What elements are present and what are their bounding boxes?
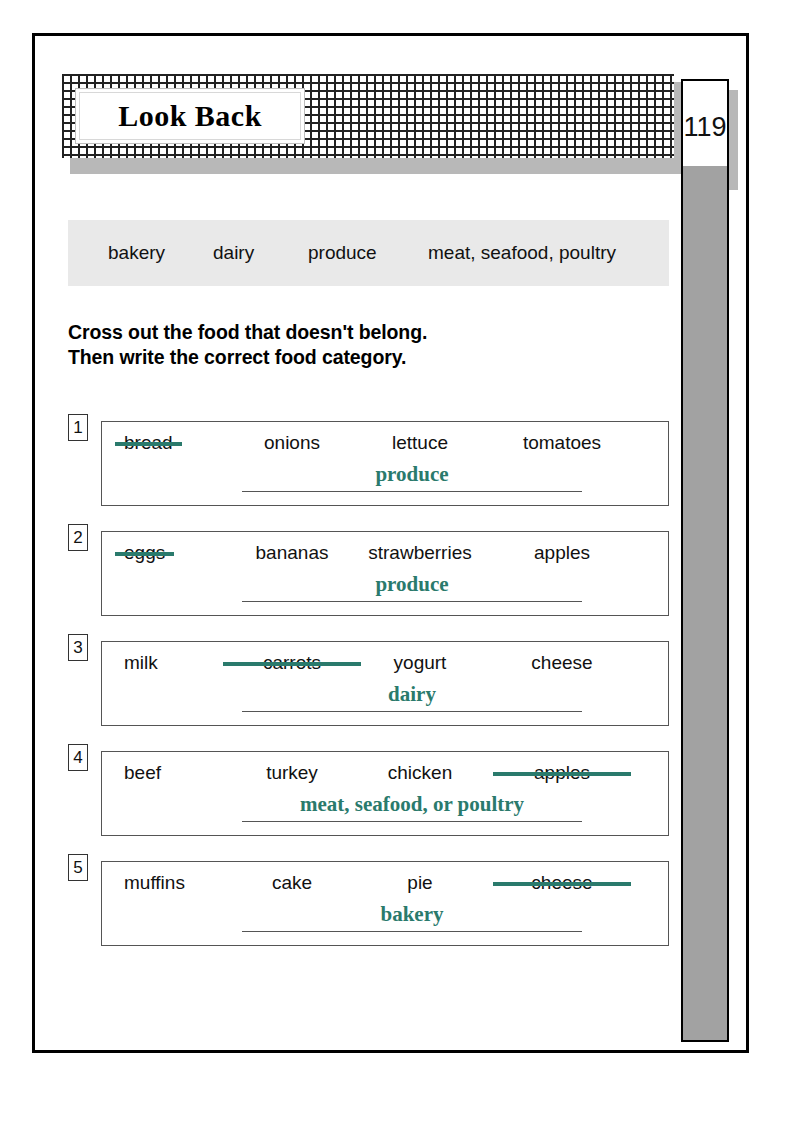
food-word-label: lettuce (392, 432, 448, 453)
word-bank-item-bakery: bakery (108, 242, 165, 264)
answer-zone[interactable]: produce (242, 572, 582, 612)
food-word-label: beef (124, 762, 161, 783)
food-word[interactable]: pie (360, 872, 480, 894)
exercise-number-box: 4 (68, 744, 88, 771)
food-word[interactable]: cheese (502, 652, 622, 674)
food-word[interactable]: chicken (360, 762, 480, 784)
food-word[interactable]: apples (502, 542, 622, 564)
exercise-box: breadonionslettucetomatoesproduce (101, 421, 669, 506)
food-word-row: beefturkeychickenapples (102, 758, 668, 792)
strikethrough-mark (493, 772, 631, 776)
food-word-label: milk (124, 652, 158, 673)
instruction-line-1: Cross out the food that doesn't belong. (68, 320, 588, 345)
food-word[interactable]: muffins (124, 872, 185, 894)
food-word-label: muffins (124, 872, 185, 893)
food-word[interactable]: bananas (232, 542, 352, 564)
exercise-number-box: 1 (68, 414, 88, 441)
food-word[interactable]: strawberries (360, 542, 480, 564)
word-bank-item-dairy: dairy (213, 242, 254, 264)
page-title: Look Back (118, 99, 262, 133)
exercise-item: 5muffinscakepiecheesebakery (68, 854, 669, 946)
food-word-label: cheese (531, 652, 592, 673)
answer-write-line (242, 491, 582, 492)
food-word-crossed-out[interactable]: cheese (502, 872, 622, 894)
strikethrough-mark (493, 882, 631, 886)
page-number-tab: 119 (681, 79, 729, 175)
right-side-strip (681, 166, 729, 1042)
food-word[interactable]: turkey (232, 762, 352, 784)
answer-write-line (242, 821, 582, 822)
answer-text: bakery (242, 902, 582, 927)
answer-zone[interactable]: dairy (242, 682, 582, 722)
word-bank: bakery dairy produce meat, seafood, poul… (68, 220, 669, 286)
answer-write-line (242, 711, 582, 712)
answer-write-line (242, 931, 582, 932)
exercise-box: eggsbananasstrawberriesapplesproduce (101, 531, 669, 616)
exercise-item: 4beefturkeychickenapplesmeat, seafood, o… (68, 744, 669, 836)
instruction-line-2: Then write the correct food category. (68, 345, 588, 370)
food-word-label: cake (272, 872, 312, 893)
food-word-crossed-out[interactable]: apples (502, 762, 622, 784)
title-plate: Look Back (75, 88, 305, 144)
header-band-shadow (70, 158, 682, 174)
food-word[interactable]: cake (232, 872, 352, 894)
food-word-label: turkey (266, 762, 318, 783)
exercise-box: milkcarrotsyogurtcheesedairy (101, 641, 669, 726)
exercise-item: 1breadonionslettucetomatoesproduce (68, 414, 669, 506)
answer-zone[interactable]: meat, seafood, or poultry (242, 792, 582, 832)
food-word-crossed-out[interactable]: eggs (124, 542, 165, 564)
exercise-box: muffinscakepiecheesebakery (101, 861, 669, 946)
answer-zone[interactable]: bakery (242, 902, 582, 942)
food-word-label: tomatoes (523, 432, 601, 453)
answer-text: meat, seafood, or poultry (242, 792, 582, 817)
food-word[interactable]: yogurt (360, 652, 480, 674)
word-bank-item-meat-seafood-poultry: meat, seafood, poultry (428, 242, 616, 264)
food-word-row: breadonionslettucetomatoes (102, 428, 668, 462)
answer-text: dairy (242, 682, 582, 707)
word-bank-item-produce: produce (308, 242, 377, 264)
exercise-number-box: 2 (68, 524, 88, 551)
food-word-row: eggsbananasstrawberriesapples (102, 538, 668, 572)
food-word-label: strawberries (368, 542, 471, 563)
food-word-row: muffinscakepiecheese (102, 868, 668, 902)
food-word-row: milkcarrotsyogurtcheese (102, 648, 668, 682)
food-word-label: yogurt (394, 652, 447, 673)
answer-text: produce (242, 572, 582, 597)
food-word[interactable]: tomatoes (502, 432, 622, 454)
food-word[interactable]: lettuce (360, 432, 480, 454)
food-word[interactable]: milk (124, 652, 158, 674)
food-word-label: bananas (256, 542, 329, 563)
strikethrough-mark (223, 662, 361, 666)
answer-text: produce (242, 462, 582, 487)
food-word-crossed-out[interactable]: carrots (232, 652, 352, 674)
answer-write-line (242, 601, 582, 602)
food-word-label: onions (264, 432, 320, 453)
exercise-item: 3milkcarrotsyogurtcheesedairy (68, 634, 669, 726)
food-word-label: chicken (388, 762, 452, 783)
food-word-label: pie (407, 872, 432, 893)
food-word-label: apples (534, 542, 590, 563)
instructions: Cross out the food that doesn't belong. … (68, 320, 588, 370)
food-word-crossed-out[interactable]: bread (124, 432, 173, 454)
exercise-number-box: 3 (68, 634, 88, 661)
strikethrough-mark (115, 442, 182, 446)
food-word[interactable]: onions (232, 432, 352, 454)
page-number: 119 (683, 112, 726, 143)
exercise-list: 1breadonionslettucetomatoesproduce2eggsb… (68, 414, 669, 964)
strikethrough-mark (115, 552, 174, 556)
answer-zone[interactable]: produce (242, 462, 582, 502)
food-word[interactable]: beef (124, 762, 161, 784)
exercise-box: beefturkeychickenapplesmeat, seafood, or… (101, 751, 669, 836)
exercise-number-box: 5 (68, 854, 88, 881)
exercise-item: 2eggsbananasstrawberriesapplesproduce (68, 524, 669, 616)
